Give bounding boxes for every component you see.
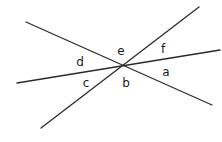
angle-label-f: f — [161, 42, 166, 56]
line-3 — [41, 7, 199, 128]
angle-diagram: a b c d e f — [0, 0, 222, 142]
angle-label-b: b — [122, 76, 130, 90]
angle-label-d: d — [76, 55, 84, 69]
angle-label-e: e — [117, 44, 124, 58]
angle-label-a: a — [162, 65, 169, 79]
diagram-svg: a b c d e f — [0, 0, 222, 142]
line-1 — [26, 22, 212, 105]
angle-label-c: c — [83, 76, 90, 90]
